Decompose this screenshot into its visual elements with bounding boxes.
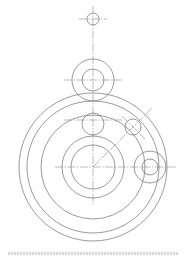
gear-train-drawing: [0, 0, 186, 259]
center-lines: [55, 6, 176, 205]
caption-text: [8, 252, 178, 255]
center-line-6: [122, 116, 145, 139]
